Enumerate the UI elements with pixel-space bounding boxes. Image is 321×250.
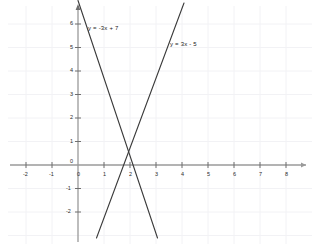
y-tick-label: 1 [70,139,73,145]
x-tick-label: 7 [259,172,262,178]
y-tick-label: -1 [66,186,71,192]
horizontal-gridlines [8,24,312,236]
y-tick-label: 5 [70,45,73,51]
x-tick-label: -1 [49,172,54,178]
y-tick-label: 3 [70,92,73,98]
y-tick-label: 6 [70,21,73,27]
x-tick-label: 4 [181,172,184,178]
equation-label-line2: y = 3x - 5 [170,41,197,47]
x-tick-label: 5 [207,172,210,178]
equation-label-line1: y = -3x + 7 [88,25,119,31]
coordinate-graph: -2 -1 0 1 2 3 4 5 6 7 8 -2 -1 0 1 2 3 4 … [0,0,321,250]
y-tick-label: 0 [70,159,73,165]
x-tick-label: 1 [103,172,106,178]
x-tick-label: 2 [129,172,132,178]
y-axis [75,4,81,242]
x-axis [10,162,306,168]
line-y-equals-neg3x-plus-7 [78,1,158,239]
line-y-equals-3x-minus-5 [97,3,185,238]
x-tick-label: -2 [23,172,28,178]
y-tick-label: -2 [66,209,71,215]
x-tick-label: 3 [155,172,158,178]
x-tick-label: 6 [233,172,236,178]
y-tick-label: 4 [70,68,73,74]
vertical-gridlines [26,6,286,244]
x-tick-label: 0 [77,172,80,178]
graph-canvas [0,0,321,250]
y-tick-label: 2 [70,115,73,121]
x-tick-label: 8 [285,172,288,178]
